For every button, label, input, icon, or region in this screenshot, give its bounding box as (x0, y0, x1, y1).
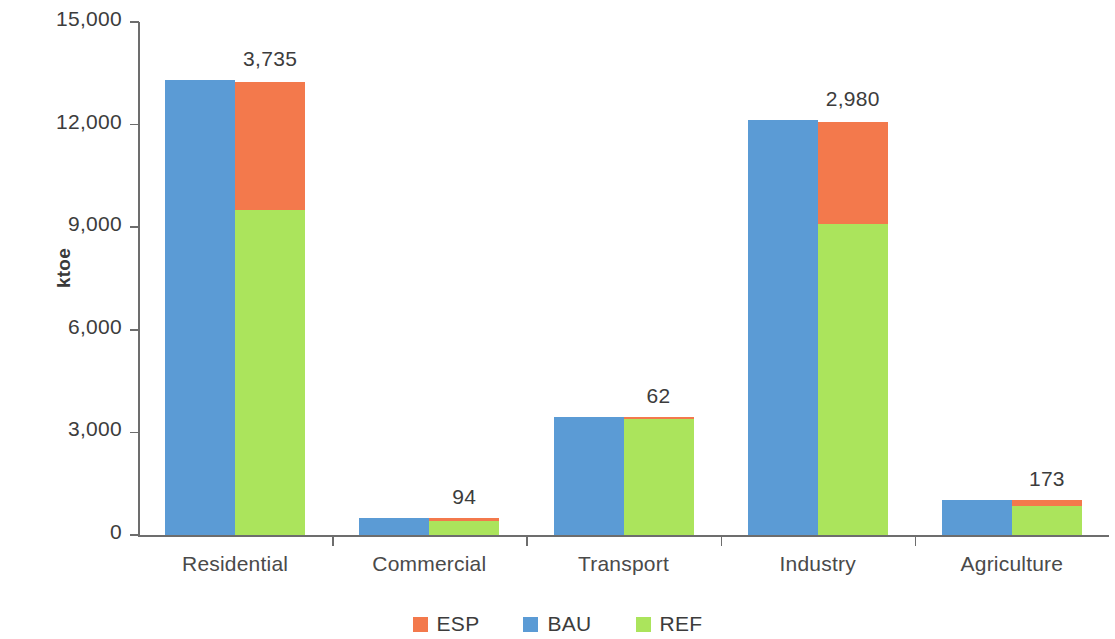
legend-swatch-bau-icon (523, 617, 538, 632)
segment-ref-agriculture (1012, 506, 1082, 535)
category-label-transport: Transport (526, 552, 720, 576)
category-label-agriculture: Agriculture (915, 552, 1109, 576)
y-tick-label: 12,000 (0, 110, 122, 134)
segment-ref-commercial (429, 521, 499, 535)
y-tick-label: 0 (0, 520, 122, 544)
bar-stack-industry (818, 122, 888, 535)
segment-ref-residential (235, 210, 305, 535)
bar-stack-commercial (429, 518, 499, 535)
chart-legend: ESPBAUREF (0, 612, 1115, 636)
category-label-industry: Industry (721, 552, 915, 576)
segment-esp-industry (818, 122, 888, 224)
x-axis-line (138, 535, 1109, 537)
bar-stack-residential (235, 82, 305, 535)
segment-esp-residential (235, 82, 305, 210)
bar-bau-commercial (359, 518, 429, 535)
bar-chart: ktoe 15,00012,0009,0006,0003,0000 3,7359… (0, 0, 1115, 639)
legend-item-ref[interactable]: REF (636, 612, 703, 636)
data-label-industry: 2,980 (768, 87, 938, 111)
bar-bau-transport (554, 417, 624, 535)
plot-area (138, 22, 1109, 535)
y-tick-label: 15,000 (0, 7, 122, 31)
data-label-residential: 3,735 (185, 47, 355, 71)
segment-esp-commercial (429, 518, 499, 521)
data-label-transport: 62 (574, 384, 744, 408)
y-tick-label: 3,000 (0, 417, 122, 441)
x-tick (721, 536, 723, 546)
y-tick-label: 6,000 (0, 315, 122, 339)
bar-bau-agriculture (942, 500, 1012, 535)
category-label-commercial: Commercial (332, 552, 526, 576)
legend-swatch-esp-icon (413, 617, 428, 632)
category-label-residential: Residential (138, 552, 332, 576)
x-tick (915, 536, 917, 546)
legend-label: ESP (437, 612, 480, 636)
legend-label: REF (660, 612, 703, 636)
bar-stack-transport (624, 417, 694, 535)
bar-bau-residential (165, 80, 235, 535)
y-tick-label: 9,000 (0, 212, 122, 236)
segment-esp-agriculture (1012, 500, 1082, 506)
data-label-commercial: 94 (379, 485, 549, 509)
segment-esp-transport (624, 417, 694, 419)
x-tick (332, 536, 334, 546)
bar-stack-agriculture (1012, 500, 1082, 535)
segment-ref-industry (818, 224, 888, 535)
bar-bau-industry (748, 120, 818, 535)
legend-swatch-ref-icon (636, 617, 651, 632)
x-tick (526, 536, 528, 546)
legend-item-esp[interactable]: ESP (413, 612, 480, 636)
data-label-agriculture: 173 (962, 467, 1115, 491)
legend-item-bau[interactable]: BAU (523, 612, 591, 636)
legend-label: BAU (547, 612, 591, 636)
segment-ref-transport (624, 419, 694, 535)
